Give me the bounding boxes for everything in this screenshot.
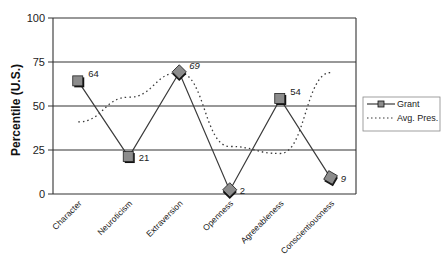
data-label: 21: [139, 152, 150, 163]
x-category-label: Conscientiousness: [279, 198, 337, 256]
x-category-label: Openness: [201, 198, 235, 232]
grant-marker-icon: [123, 152, 135, 164]
avg-pres-line: [78, 73, 331, 154]
legend: Grant Avg. Pres.: [363, 97, 440, 131]
x-category-label: Neuroticism: [95, 198, 134, 237]
y-tick-label: 50: [33, 100, 45, 112]
data-label: 54: [290, 86, 301, 97]
data-label: 64: [88, 68, 99, 79]
line-chart: 0255075100 Percentile (U.S.) CharacterNe…: [0, 0, 447, 265]
grant-marker-icon: [222, 183, 238, 199]
data-label: 9: [341, 173, 347, 184]
grant-marker-icon: [323, 171, 339, 187]
marker-face: [275, 93, 285, 103]
grant-marker-icon: [275, 93, 287, 105]
legend-label-grant: Grant: [397, 99, 420, 109]
data-label: 69: [189, 60, 200, 71]
y-tick-label: 25: [33, 144, 45, 156]
marker-face: [73, 76, 83, 86]
marker-face: [324, 171, 338, 185]
series-avg-pres: [78, 73, 331, 154]
x-category-label: Agreeableness: [238, 198, 285, 245]
legend-label-avg-pres: Avg. Pres.: [397, 113, 438, 123]
x-axis-categories: CharacterNeuroticismExtraversionOpenness…: [50, 198, 336, 256]
marker-face: [223, 183, 237, 197]
y-tick-label: 0: [39, 188, 45, 200]
grant-marker-icon: [171, 65, 187, 81]
data-label: 2: [240, 185, 245, 196]
marker-face: [123, 152, 133, 162]
y-tick-label: 100: [27, 12, 45, 24]
x-category-label: Extraversion: [144, 198, 185, 239]
grant-marker-icon: [73, 76, 85, 88]
y-axis-ticks: 0255075100: [27, 12, 45, 200]
marker-face: [172, 65, 186, 79]
y-tick-label: 75: [33, 56, 45, 68]
y-axis-label: Percentile (U.S.): [9, 64, 23, 156]
x-category-label: Character: [50, 198, 84, 232]
series-grant: 6421692549: [73, 60, 347, 199]
legend-grant-marker-icon: [378, 101, 384, 107]
